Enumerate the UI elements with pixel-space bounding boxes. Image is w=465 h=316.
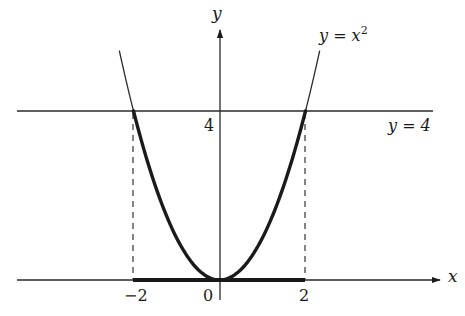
- horizontal-line-label: y = 4: [388, 118, 431, 134]
- parabola-equation-exponent: 2: [361, 24, 368, 37]
- parabola-equation-text: y = x: [319, 26, 361, 45]
- graph-canvas: [0, 0, 465, 316]
- x-tick-label-neg2: −2: [124, 288, 148, 304]
- y-tick-label-4: 4: [204, 118, 214, 134]
- x-tick-label-0: 0: [203, 288, 213, 304]
- parabola-equation-label: y = x2: [319, 28, 368, 44]
- parabola-arm-right: [306, 51, 320, 111]
- x-axis-label: x: [448, 268, 458, 285]
- x-tick-label-2: 2: [299, 288, 309, 304]
- parabola-arm-left: [119, 51, 133, 111]
- y-axis-label: y: [212, 5, 222, 22]
